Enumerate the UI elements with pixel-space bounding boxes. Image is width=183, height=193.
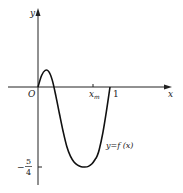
curve-label: y=f (x) [105, 141, 133, 150]
origin-label: O [28, 89, 36, 99]
xm-subscript: m [94, 93, 100, 100]
frac-denominator: 4 [26, 168, 31, 177]
function-graph: y x O xm 1 − 5 4 y=f (x) [0, 0, 183, 193]
frac-numerator: 5 [26, 157, 31, 166]
neg-sign: − [17, 162, 25, 172]
x-axis-label: x [168, 89, 173, 99]
y-axis-arrow [36, 8, 41, 16]
curve-f-of-x [38, 70, 110, 167]
y-axis-label: y [29, 8, 36, 18]
one-label: 1 [113, 89, 119, 99]
xm-label: xm [89, 89, 100, 100]
